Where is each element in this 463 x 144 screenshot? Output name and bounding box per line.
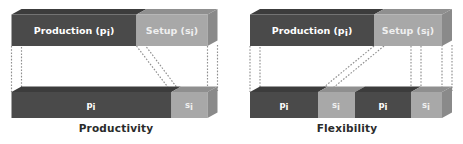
r-top-bar-production-topface [250,9,384,15]
r-bottom-bar-p1-label-sub: i [286,102,289,112]
top-bar-setup-label-main: Setup (s [146,25,191,36]
r-bottom-bar-s2-label-sub: i [427,102,430,112]
projection-line-slant-a [137,46,172,92]
r-bottom-bar-p2-topface [355,87,421,93]
caption-productivity: Productivity [0,122,232,134]
r-top-bar-setup-sideface [442,9,452,46]
projection-line-r-slant-b [328,46,384,92]
r-bottom-bar-p1-topface [250,87,328,93]
projection-line-r-slant-a [318,46,374,92]
top-bar-production-label-tail: ) [110,25,114,36]
caption-flexibility: Flexibility [231,122,463,134]
r-bottom-bar-p2-label-sub: i [385,102,388,112]
r-top-bar-setup-label-tail: ) [430,25,434,36]
top-bar-production-topface [12,9,147,15]
r-top-bar-production-label-tail: ) [348,25,352,36]
projection-lines-right [250,45,452,93]
bottom-bar-s1-label-sub: i [190,102,193,112]
r-top-bar-production-label-main: Production (p [272,25,345,36]
bottom-bar-p1-topface [12,87,182,93]
r-bottom-bar-s1-label-sub: i [337,102,340,112]
top-bar-production-label-main: Production (p [34,25,107,36]
top-bar-setup-sideface [208,9,218,46]
panel-flexibility: Production (pi) Setup (si) [231,0,463,144]
bottom-bar-s1-sideface [208,87,218,119]
top-bar-setup-label-tail: ) [194,25,198,36]
r-bottom-bar-s2-sideface [442,87,452,119]
top-bar-setup-topface [137,9,218,15]
r-top-bar-setup-label-main: Setup (s [382,25,427,36]
r-top-bar-setup-topface [374,9,452,15]
projection-line-slant-b [147,47,182,93]
figure-root: Production (pi) Setup (si) pi [0,0,463,144]
panel-productivity: Production (pi) Setup (si) pi [0,0,232,144]
projection-lines-left [12,45,218,93]
bottom-bar-p1-label-sub: i [93,102,96,112]
